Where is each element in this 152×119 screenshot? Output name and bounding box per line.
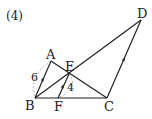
measure-EF: 4 <box>67 81 74 94</box>
label-E: E <box>65 59 75 74</box>
geometry-figure: (4) A B C D E F 6 4 <box>0 0 152 119</box>
measure-AB: 6 <box>31 71 38 84</box>
problem-number: (4) <box>6 9 23 23</box>
label-D: D <box>137 6 147 21</box>
label-A: A <box>45 47 56 62</box>
parallel-arrow-CD-icon <box>122 57 126 62</box>
label-C: C <box>104 99 114 114</box>
label-B: B <box>25 98 35 113</box>
label-F: F <box>54 99 63 114</box>
